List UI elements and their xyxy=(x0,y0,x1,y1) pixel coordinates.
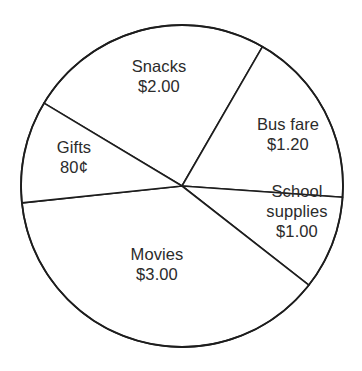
pie-chart-svg xyxy=(0,0,362,371)
pie-chart: Snacks $2.00 Bus fare $1.20 School suppl… xyxy=(0,0,362,371)
pie-slice-group xyxy=(21,25,343,347)
